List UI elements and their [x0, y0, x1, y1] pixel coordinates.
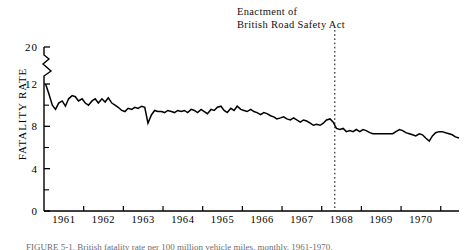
x-tick-label-1965: 1965 — [211, 214, 234, 225]
figure-caption: FIGURE 5-1. British fatality rate per 10… — [26, 242, 456, 250]
x-tick-label-1963: 1963 — [131, 214, 154, 225]
figure-container: Enactment of British Road Safety Act FAT… — [0, 0, 469, 250]
data-line-0 — [46, 84, 459, 141]
x-tick-label-1968: 1968 — [330, 214, 353, 225]
x-tick-label-1967: 1967 — [290, 214, 313, 225]
x-tick-label-1970: 1970 — [409, 214, 432, 225]
x-tick-label-1966: 1966 — [251, 214, 274, 225]
y-axis-break-zigzag — [43, 47, 51, 84]
x-tick-label-1961: 1961 — [52, 214, 75, 225]
x-tick-label-1962: 1962 — [92, 214, 115, 225]
x-tick-label-1969: 1969 — [370, 214, 393, 225]
plot-area — [0, 0, 469, 250]
x-tick-label-1964: 1964 — [171, 214, 194, 225]
